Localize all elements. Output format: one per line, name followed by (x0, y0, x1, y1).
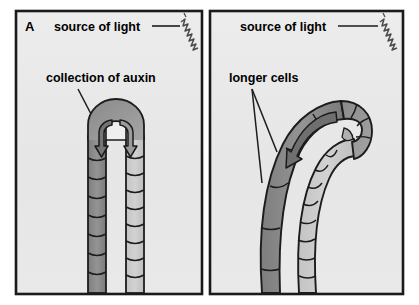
light-stem-body (126, 136, 144, 293)
panel-a-auxin-label: collection of auxin (46, 71, 156, 85)
panel-a-light-stem (126, 136, 144, 293)
figure-canvas: A source of light collection of auxin (0, 0, 419, 305)
panel-b-cells-label: longer cells (229, 71, 299, 85)
panel-a-frame (16, 11, 202, 294)
panel-a-letter: A (25, 19, 35, 34)
panel-b-light-label: source of light (240, 20, 327, 34)
panel-a-light-label: source of light (54, 20, 141, 34)
panel-a: A source of light collection of auxin (16, 11, 202, 294)
panel-b: source of light longer cells (210, 11, 403, 294)
panel-a-dark-stem (88, 136, 106, 293)
phototropism-figure: A source of light collection of auxin (0, 0, 419, 305)
